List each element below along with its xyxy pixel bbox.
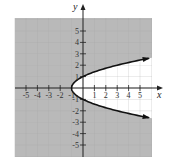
x-tick-label: 3: [115, 91, 119, 100]
x-axis-label: x: [156, 89, 162, 100]
x-tick-label: -3: [45, 91, 52, 100]
x-tick-label: -2: [57, 91, 64, 100]
y-tick-label: 1: [75, 73, 79, 82]
x-tick-label: 2: [104, 91, 108, 100]
x-tick-label: -4: [34, 91, 41, 100]
y-axis-arrow-icon: [81, 4, 86, 10]
x-tick-label: 5: [138, 91, 142, 100]
y-tick-label: -1: [72, 95, 79, 104]
y-tick-label: -3: [72, 118, 79, 127]
y-tick-label: -4: [72, 130, 79, 139]
x-tick-label: -5: [23, 91, 30, 100]
y-tick-label: 2: [75, 61, 79, 70]
shaded-region: [15, 14, 169, 161]
x-tick-label: 1: [92, 91, 96, 100]
x-tick-label: 4: [127, 91, 131, 100]
y-tick-label: 4: [75, 38, 79, 47]
y-tick-label: -5: [72, 141, 79, 150]
y-tick-label: -2: [72, 107, 79, 116]
inequality-graph: -5-4-3-2-112345-5-4-3-2-112345 x y: [0, 0, 169, 161]
y-tick-label: 3: [75, 50, 79, 59]
y-axis-label: y: [72, 1, 78, 12]
y-tick-label: 5: [75, 27, 79, 36]
